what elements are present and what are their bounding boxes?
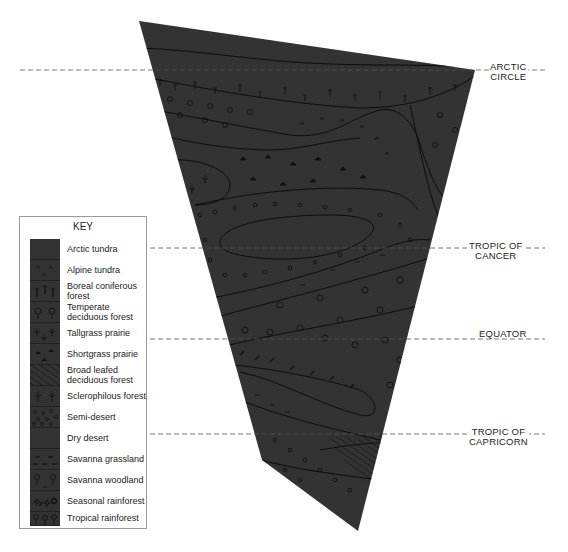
arctic-tundra-swatch-icon xyxy=(30,239,60,260)
tropic-of-capricorn-label: TROPIC OF CAPRICORN xyxy=(468,427,529,447)
circles-swatch-icon xyxy=(30,407,60,428)
key-label: Tropical rainforest xyxy=(67,512,149,526)
key-label: Temperate deciduous forest xyxy=(67,302,149,323)
key-label: Boreal coniferous forest xyxy=(67,281,149,302)
equator-label-line1: EQUATOR xyxy=(479,329,527,339)
key-label: Savanna woodland xyxy=(67,470,149,491)
key-item-alpine-tundra: Alpine tundra xyxy=(30,260,146,281)
key-item-arctic-tundra: Arctic tundra xyxy=(30,239,146,260)
dry-desert-swatch-icon xyxy=(30,428,60,449)
key-item-sclerophilous-forest: Sclerophilous forest xyxy=(30,386,146,407)
hatch-swatch-icon xyxy=(30,365,60,386)
key-label: Seasonal rainforest xyxy=(67,491,149,512)
key-item-shortgrass-prairie: Shortgrass prairie xyxy=(30,344,146,365)
key-label: Alpine tundra xyxy=(67,260,149,281)
key-item-semi-desert: Semi-desert xyxy=(30,407,146,428)
tropic-of-cancer-label-line2: CANCER xyxy=(469,251,523,261)
dashes-swatch-icon xyxy=(30,449,60,470)
key-item-savanna-woodland: Savanna woodland xyxy=(30,470,146,491)
alpine-tundra-swatch-icon xyxy=(30,260,60,281)
key-label: Shortgrass prairie xyxy=(67,344,149,365)
continent-shape xyxy=(139,21,475,531)
key-item-boreal-coniferous-forest: Boreal coniferous forest xyxy=(30,281,146,302)
tallgrass-swatch-icon xyxy=(30,323,60,344)
key-label: Broad leafed deciduous forest xyxy=(67,365,149,386)
dense-leaf-swatch-icon xyxy=(30,491,60,512)
broad-tree-swatch-icon xyxy=(30,512,60,526)
equator-label: EQUATOR xyxy=(478,329,528,339)
sparse-tree-swatch-icon xyxy=(30,470,60,491)
key-label: Tallgrass prairie xyxy=(67,323,149,344)
tropic-of-capricorn-label-line2: CAPRICORN xyxy=(469,437,528,447)
legend-key: KEY Arctic tundra Alpine tundra Boreal c… xyxy=(19,216,147,529)
key-label: Dry desert xyxy=(67,428,149,449)
conifer-swatch-icon xyxy=(30,281,60,302)
tropic-of-cancer-label: TROPIC OF CANCER xyxy=(468,241,524,261)
shortgrass-swatch-icon xyxy=(30,344,60,365)
key-label: Savanna grassland xyxy=(67,449,149,470)
key-item-dry-desert: Dry desert xyxy=(30,428,146,449)
key-item-temperate-deciduous-forest: Temperate deciduous forest xyxy=(30,302,146,323)
key-label: Arctic tundra xyxy=(67,239,149,260)
key-item-broad-leafed-deciduous-forest: Broad leafed deciduous forest xyxy=(30,365,146,386)
key-item-tallgrass-prairie: Tallgrass prairie xyxy=(30,323,146,344)
key-label: Semi-desert xyxy=(67,407,149,428)
arctic-circle-label: ARCTIC CIRCLE xyxy=(489,62,528,82)
key-label: Sclerophilous forest xyxy=(67,386,149,407)
shrub-swatch-icon xyxy=(30,386,60,407)
key-item-savanna-grassland: Savanna grassland xyxy=(30,449,146,470)
arctic-circle-label-line2: CIRCLE xyxy=(490,72,527,82)
key-title: KEY xyxy=(20,221,146,232)
key-item-tropical-rainforest: Tropical rainforest xyxy=(30,512,146,530)
round-tree-swatch-icon xyxy=(30,302,60,323)
key-item-seasonal-rainforest: Seasonal rainforest xyxy=(30,491,146,512)
